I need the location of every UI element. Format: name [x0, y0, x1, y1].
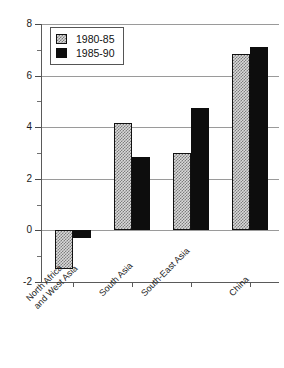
y-tick-minor-7 — [37, 50, 41, 51]
bar-1985-90-south-east-asia — [191, 108, 209, 231]
bar-chart-figure: 8 6 4 2 0 -2 North Africa and West Asia … — [0, 0, 284, 368]
y-tick-8 — [35, 24, 41, 25]
legend-label-1985-90: 1985-90 — [76, 48, 115, 59]
y-axis-line — [41, 24, 42, 282]
legend-entry-1980-85: 1980-85 — [56, 32, 115, 46]
bar-1980-85-south-asia — [114, 123, 132, 230]
chart-legend: 1980-85 1985-90 — [50, 27, 124, 65]
gridline-8 — [41, 24, 279, 25]
y-tick-minor-3 — [37, 153, 41, 154]
bar-1980-85-south-east-asia — [173, 153, 191, 230]
bar-1985-90-china — [250, 47, 268, 230]
y-axis-label-neg2: -2 — [0, 277, 32, 287]
x-tick-china — [250, 282, 251, 287]
legend-swatch-light-checker-icon — [56, 34, 67, 44]
bar-1985-90-south-asia — [132, 157, 150, 231]
x-tick-south-asia — [132, 282, 133, 287]
y-tick-minor-1 — [37, 205, 41, 206]
y-tick-minor-5 — [37, 101, 41, 102]
y-tick-2 — [35, 179, 41, 180]
y-axis-label-0: 0 — [0, 225, 32, 235]
bar-1980-85-china — [232, 54, 250, 231]
y-axis-label-6: 6 — [0, 71, 32, 81]
y-axis-label-8: 8 — [0, 19, 32, 29]
x-tick-north-africa-and-west-asia — [73, 282, 74, 287]
bar-1985-90-north-africa-and-west-asia — [73, 230, 91, 238]
y-tick-minor-neg1 — [37, 256, 41, 257]
y-tick-6 — [35, 76, 41, 77]
y-tick-0 — [35, 230, 41, 231]
legend-label-1980-85: 1980-85 — [76, 34, 115, 45]
y-axis-label-4: 4 — [0, 122, 32, 132]
y-tick-4 — [35, 127, 41, 128]
legend-entry-1985-90: 1985-90 — [56, 46, 115, 60]
y-axis-label-2: 2 — [0, 174, 32, 184]
legend-swatch-dark-solid-icon — [56, 48, 67, 58]
x-tick-south-east-asia — [191, 282, 192, 287]
